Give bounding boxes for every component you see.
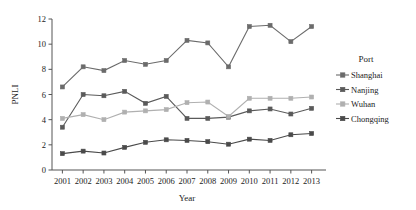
data-point-chongqing-2009 — [227, 142, 231, 146]
data-point-nanjing-2013 — [310, 106, 314, 110]
data-point-chongqing-2007 — [185, 138, 189, 142]
x-axis-tick-label: 2008 — [199, 176, 216, 186]
data-point-wuhan-2002 — [81, 113, 85, 117]
x-axis-tick-label: 2005 — [137, 176, 154, 186]
data-point-chongqing-2001 — [60, 152, 64, 156]
data-point-chongqing-2006 — [164, 138, 168, 142]
y-axis-tick-label: 12 — [38, 14, 47, 24]
x-axis-title: Year — [179, 193, 196, 203]
y-axis-tick-label: 6 — [42, 90, 46, 100]
data-point-shanghai-2008 — [206, 41, 210, 45]
data-point-shanghai-2006 — [164, 59, 168, 63]
x-axis-tick-label: 2012 — [282, 176, 299, 186]
data-point-shanghai-2009 — [227, 65, 231, 69]
data-point-wuhan-2011 — [268, 96, 272, 100]
x-axis-tick-label: 2001 — [54, 176, 71, 186]
data-point-shanghai-2010 — [247, 25, 251, 29]
x-axis-tick-label: 2013 — [303, 176, 320, 186]
data-point-chongqing-2002 — [81, 149, 85, 153]
data-point-wuhan-2006 — [164, 108, 168, 112]
data-point-nanjing-2011 — [268, 107, 272, 111]
data-point-chongqing-2008 — [206, 140, 210, 144]
data-point-nanjing-2002 — [81, 93, 85, 97]
data-point-wuhan-2010 — [247, 96, 251, 100]
data-point-shanghai-2012 — [289, 40, 293, 44]
y-axis-tick-label: 8 — [42, 64, 46, 74]
data-point-chongqing-2010 — [247, 137, 251, 141]
x-axis-tick-label: 2003 — [95, 176, 112, 186]
legend-label-shanghai: Shanghai — [351, 70, 383, 80]
legend-marker-chongqing — [341, 116, 345, 120]
data-point-nanjing-2003 — [102, 94, 106, 98]
data-point-shanghai-2005 — [143, 62, 147, 66]
data-point-nanjing-2001 — [60, 125, 64, 129]
y-axis-tick-label: 10 — [38, 39, 47, 49]
y-axis-tick-label: 4 — [42, 115, 47, 125]
data-point-nanjing-2006 — [164, 94, 168, 98]
data-point-chongqing-2004 — [123, 145, 127, 149]
legend-title: Port — [358, 54, 374, 64]
data-point-wuhan-2001 — [60, 116, 64, 120]
data-point-wuhan-2008 — [206, 100, 210, 104]
data-point-wuhan-2004 — [123, 110, 127, 114]
data-point-shanghai-2007 — [185, 38, 189, 42]
data-point-shanghai-2001 — [60, 85, 64, 89]
data-point-nanjing-2008 — [206, 116, 210, 120]
data-point-nanjing-2007 — [185, 116, 189, 120]
data-point-wuhan-2013 — [310, 95, 314, 99]
legend-label-wuhan: Wuhan — [351, 99, 376, 109]
series-line-chongqing — [62, 134, 311, 154]
data-point-shanghai-2013 — [310, 25, 314, 29]
data-point-shanghai-2003 — [102, 69, 106, 73]
series-line-shanghai — [62, 25, 311, 87]
data-point-wuhan-2003 — [102, 118, 106, 122]
data-point-nanjing-2010 — [247, 109, 251, 113]
line-chart: 024681012PNLI200120022003200420052006200… — [0, 0, 416, 210]
chart-canvas: 024681012PNLI200120022003200420052006200… — [0, 0, 416, 210]
x-axis-tick-label: 2010 — [241, 176, 258, 186]
x-axis-tick-label: 2009 — [220, 176, 237, 186]
x-axis-tick-label: 2006 — [158, 176, 175, 186]
data-point-wuhan-2012 — [289, 96, 293, 100]
data-point-shanghai-2011 — [268, 23, 272, 27]
data-point-wuhan-2007 — [185, 101, 189, 105]
series-line-nanjing — [62, 91, 311, 127]
data-point-shanghai-2004 — [123, 59, 127, 63]
data-point-chongqing-2003 — [102, 151, 106, 155]
x-axis-tick-label: 2002 — [75, 176, 92, 186]
x-axis-tick-label: 2011 — [262, 176, 279, 186]
legend-label-chongqing: Chongqing — [351, 114, 390, 124]
y-axis-tick-label: 0 — [42, 165, 46, 175]
data-point-chongqing-2012 — [289, 133, 293, 137]
data-point-wuhan-2005 — [143, 109, 147, 113]
data-point-chongqing-2013 — [310, 132, 314, 136]
legend-marker-nanjing — [341, 87, 345, 91]
x-axis-tick-label: 2004 — [116, 176, 134, 186]
data-point-chongqing-2005 — [143, 140, 147, 144]
data-point-chongqing-2011 — [268, 138, 272, 142]
data-point-nanjing-2005 — [143, 101, 147, 105]
legend-marker-wuhan — [341, 102, 345, 106]
y-axis-tick-label: 2 — [42, 140, 46, 150]
data-point-wuhan-2009 — [227, 115, 231, 119]
y-axis-title: PNLI — [10, 84, 20, 104]
legend-marker-shanghai — [341, 73, 345, 77]
data-point-nanjing-2004 — [123, 89, 127, 93]
data-point-shanghai-2002 — [81, 65, 85, 69]
data-point-nanjing-2012 — [289, 112, 293, 116]
legend-label-nanjing: Nanjing — [351, 85, 379, 95]
x-axis-tick-label: 2007 — [179, 176, 196, 186]
